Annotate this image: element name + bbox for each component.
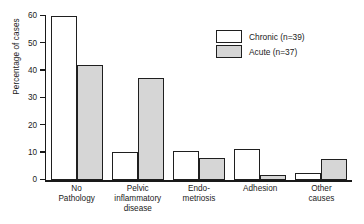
bar-acute	[199, 158, 225, 180]
bar-chronic	[295, 173, 321, 180]
legend-label-acute: Acute (n=37)	[249, 47, 297, 57]
y-tick-label-30: 30	[28, 93, 37, 102]
x-category-label-line: causes	[291, 194, 352, 204]
bar-acute	[77, 65, 103, 180]
bar-chronic	[112, 152, 138, 180]
x-category-label-line: disease	[107, 204, 168, 214]
legend-item-acute: Acute (n=37)	[216, 45, 305, 58]
bar-acute	[321, 159, 347, 180]
x-category-label: Endo-metriosis	[168, 184, 229, 204]
bar-group: NoPathology	[46, 16, 107, 180]
x-category-label-line: Endo-	[168, 184, 229, 194]
bar-chronic	[173, 151, 199, 180]
legend-swatch-acute	[216, 45, 242, 58]
x-category-label-line: No	[46, 184, 107, 194]
x-category-label-line: Adhesion	[230, 184, 291, 194]
x-axis-line	[45, 180, 353, 182]
chart-legend: Chronic (n=39) Acute (n=37)	[216, 30, 305, 58]
bar-chart-figure: Percentage of cases 0102030405060 NoPath…	[0, 0, 364, 224]
x-category-label: NoPathology	[46, 184, 107, 204]
legend-item-chronic: Chronic (n=39)	[216, 30, 305, 43]
y-axis-label: Percentage of cases	[12, 0, 21, 117]
bar-chronic	[51, 16, 77, 180]
y-tick-label-40: 40	[28, 66, 37, 75]
bar-acute	[260, 175, 286, 180]
legend-swatch-chronic	[216, 30, 242, 43]
y-tick-label-10: 10	[28, 148, 37, 157]
x-category-label-line: Other	[291, 184, 352, 194]
bar-chronic	[234, 149, 260, 180]
plot-area: 0102030405060 NoPathologyPelvicinflammat…	[46, 16, 352, 180]
y-tick-label-50: 50	[28, 38, 37, 47]
x-category-label: Adhesion	[230, 184, 291, 194]
x-category-label-line: metriosis	[168, 194, 229, 204]
x-category-label-line: Pathology	[46, 194, 107, 204]
y-tick-label-0: 0	[32, 175, 37, 184]
x-category-label: Pelvicinflammatorydisease	[107, 184, 168, 215]
x-category-label-line: Pelvic	[107, 184, 168, 194]
y-tick-label-60: 60	[28, 11, 37, 20]
bar-group: Pelvicinflammatorydisease	[107, 16, 168, 180]
bar-acute	[138, 78, 164, 181]
legend-label-chronic: Chronic (n=39)	[249, 32, 305, 42]
x-category-label: Othercauses	[291, 184, 352, 204]
x-category-label-line: inflammatory	[107, 194, 168, 204]
y-tick-label-20: 20	[28, 120, 37, 129]
